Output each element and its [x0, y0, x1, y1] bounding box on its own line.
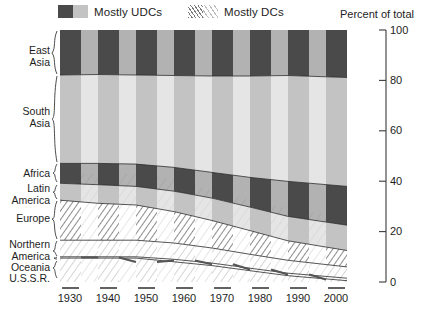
y-tick-label-100: 100 [390, 24, 408, 36]
brace-latin-america [53, 185, 57, 199]
x-tick-label-1930: 1930 [50, 292, 90, 304]
x-tick-label-2000: 2000 [316, 292, 356, 304]
x-tick-label-1980: 1980 [240, 292, 280, 304]
brace-east-asia [52, 31, 57, 74]
region-braces [52, 31, 57, 278]
region-label-africa: Africa [0, 168, 50, 180]
y-axis [379, 30, 386, 282]
y-tick-label-20: 20 [390, 225, 402, 237]
y-tick-label-40: 40 [390, 175, 402, 187]
brace-south-asia [52, 76, 57, 162]
region-label-south-asia: South Asia [0, 106, 50, 129]
brace-northern-america [53, 241, 57, 256]
brace-europe [52, 201, 57, 239]
region-label-east-asia: East Asia [0, 45, 50, 68]
region-label-latin-america: Latin America [0, 183, 50, 206]
x-tick-label-1970: 1970 [202, 292, 242, 304]
x-tick-label-1940: 1940 [88, 292, 128, 304]
brace-oceania [54, 257, 57, 259]
brace-ussr [53, 261, 57, 278]
chart-root: Mostly UDCs Mostly DCs Percent of total [0, 0, 431, 318]
y-tick-label-0: 0 [390, 276, 396, 288]
region-label-europe: Europe [0, 213, 50, 225]
x-tick-label-1960: 1960 [164, 292, 204, 304]
brace-africa [53, 164, 57, 182]
x-tick-label-1950: 1950 [126, 292, 166, 304]
region-label-ussr: U.S.S.R. [0, 273, 50, 285]
connector-3 [157, 261, 174, 263]
stacked-area-chart-svg [0, 0, 431, 318]
x-tick-label-1990: 1990 [278, 292, 318, 304]
y-tick-label-80: 80 [390, 74, 402, 86]
chart-plot-area [0, 0, 431, 318]
region-label-northern-america: Northern America [0, 239, 50, 262]
y-tick-label-60: 60 [390, 124, 402, 136]
